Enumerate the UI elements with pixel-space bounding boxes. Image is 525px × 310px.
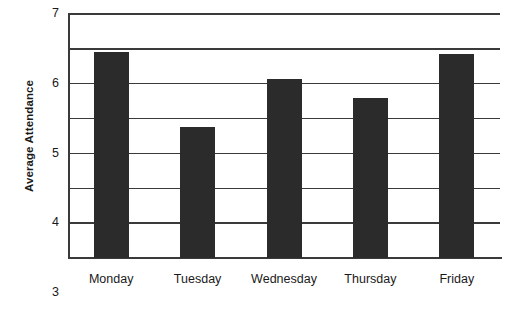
x-tick-label: Wednesday [251,272,317,286]
bar [439,54,474,258]
bar-group [94,14,129,258]
bar-series [68,14,500,258]
y-tick-label: 3 [52,285,59,299]
y-tick-label: 5 [52,146,59,160]
bar-group [267,14,302,258]
bar-group [439,14,474,258]
bar [353,98,388,258]
bar-group [353,14,388,258]
x-tick-label: Thursday [344,272,396,286]
y-tick-label: 4 [52,215,59,229]
x-tick-label: Monday [89,272,133,286]
plot-area: 76543210 [68,14,500,258]
x-tick-label: Friday [439,272,474,286]
y-tick-label: 7 [52,6,59,20]
chart-screenshot: Average Attendance 76543210 MondayTuesda… [0,0,525,310]
bar-group [180,14,215,258]
x-tick-label: Tuesday [174,272,221,286]
bar [180,127,215,258]
y-axis-title: Average Attendance [22,14,36,258]
bar [94,52,129,258]
bar [267,79,302,259]
y-tick-label: 6 [52,76,59,90]
